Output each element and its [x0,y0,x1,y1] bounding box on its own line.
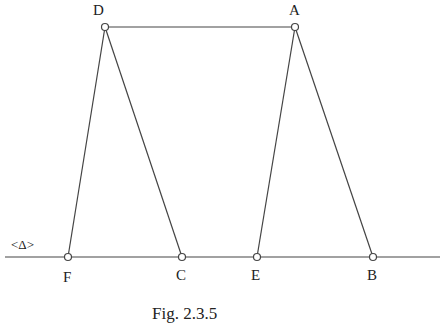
line-label: <Δ> [11,238,34,251]
segment-AE [257,27,295,257]
segment-AB [295,27,373,257]
label-C: C [176,268,186,283]
label-F: F [63,270,71,285]
point-E [254,254,261,261]
segment-DC [105,27,182,257]
point-C [179,254,186,261]
label-A: A [289,3,300,18]
figure-caption: Fig. 2.3.5 [152,305,217,322]
point-A [292,24,299,31]
point-D [102,24,109,31]
point-F [65,254,72,261]
segment-DF [68,27,105,257]
label-D: D [93,3,104,18]
label-E: E [251,268,260,283]
point-B [370,254,377,261]
label-B: B [367,268,377,283]
